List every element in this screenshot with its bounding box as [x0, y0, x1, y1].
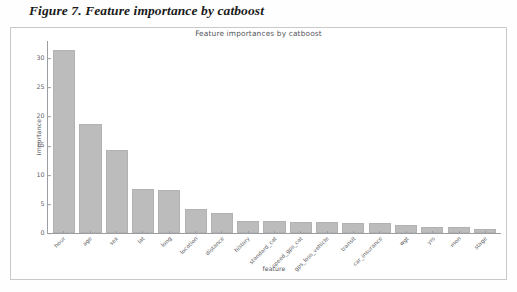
bar	[132, 189, 154, 233]
x-axis-tick-label: hour	[54, 236, 67, 249]
x-axis-tick: stage	[474, 234, 496, 282]
y-axis-tick: 20	[36, 113, 48, 119]
x-axis-tick: distance	[210, 234, 232, 282]
x-axis-tick: location	[184, 234, 206, 282]
y-axis-label: importance	[35, 119, 42, 155]
x-axis-tick-label: location	[179, 236, 199, 256]
plot-area: importance 051015202530	[47, 41, 501, 234]
bar	[79, 124, 101, 233]
x-axis-tick: yrs	[421, 234, 443, 282]
x-axis-label: feature	[47, 265, 501, 272]
x-axis-tick-label: wgt	[399, 236, 410, 247]
y-axis-tick: 15	[36, 143, 48, 149]
x-axis-tick-label: long	[160, 236, 172, 248]
scanned-page: Figure 7. Feature importance by catboost…	[0, 0, 517, 292]
x-axis-tick-label: stage	[474, 236, 489, 251]
chart-title: Feature importances by catboost	[11, 29, 506, 38]
y-axis-tick: 30	[36, 55, 48, 61]
y-axis-tick: 25	[36, 84, 48, 90]
x-axis-tick-label: mon	[450, 236, 463, 249]
bar-series	[48, 41, 501, 233]
bar	[158, 190, 180, 233]
figure-frame: Feature importances by catboost importan…	[10, 27, 507, 280]
bar	[53, 50, 75, 233]
bar	[106, 150, 128, 233]
y-axis-tick: 10	[36, 172, 48, 178]
x-axis-tick: hour	[52, 234, 74, 282]
x-axis-tick: mon	[447, 234, 469, 282]
bar	[185, 209, 207, 233]
y-axis-tick: 5	[40, 201, 48, 207]
x-axis-tick: long	[158, 234, 180, 282]
x-axis-tick-label: distance	[205, 236, 226, 257]
x-axis-tick: sex	[105, 234, 127, 282]
bar	[211, 213, 233, 233]
x-axis-tick-label: history	[234, 236, 252, 254]
x-axis-tick-label: transit	[340, 236, 357, 253]
x-axis-tick-label: yrs	[426, 236, 436, 246]
x-axis-tick: car_insurance	[368, 234, 390, 282]
x-axis-tick-label: sex	[109, 236, 120, 247]
x-axis-tick: wgt	[395, 234, 417, 282]
x-axis-tick-label: age	[82, 236, 93, 247]
x-axis-tick: lat	[131, 234, 153, 282]
x-axis-ticks: houragesexlatlonglocationdistancehistory…	[47, 234, 501, 282]
x-axis-tick: gps_loss_vehicle	[316, 234, 338, 282]
x-axis-tick: age	[78, 234, 100, 282]
x-axis-tick-label: lat	[137, 236, 146, 245]
figure-caption: Figure 7. Feature importance by catboost	[29, 3, 264, 19]
